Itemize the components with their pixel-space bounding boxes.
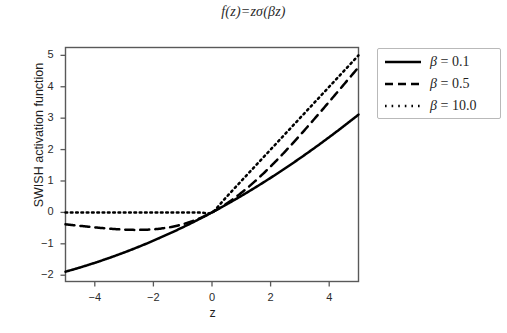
legend-line-solid-icon [383, 51, 423, 73]
legend-box: β = 0.1 β = 0.5 β = 10.0 [377, 48, 501, 119]
y-tick-label: 1 [34, 174, 54, 186]
x-tick-label: 2 [259, 291, 283, 303]
legend-line-dashed-icon [383, 73, 423, 95]
x-tick-label: 4 [317, 291, 341, 303]
legend-item-beta-0-1[interactable]: β = 0.1 [378, 51, 502, 73]
x-tick-marks [95, 282, 329, 287]
x-tick-label: −2 [141, 291, 165, 303]
y-tick-label: −1 [34, 237, 54, 249]
y-tick-label: 4 [34, 80, 54, 92]
figure-container: f(z)=zσ(βz) SWISH activation function z … [0, 0, 507, 333]
y-tick-label: 5 [34, 48, 54, 60]
legend-line-dotted-icon [383, 95, 423, 117]
legend-label-2: β = 10.0 [430, 98, 476, 114]
y-tick-label: −2 [34, 268, 54, 280]
legend-item-beta-10-0[interactable]: β = 10.0 [378, 95, 502, 117]
legend-label-0: β = 0.1 [430, 54, 469, 70]
x-tick-label: −4 [83, 291, 107, 303]
x-tick-label: 0 [200, 291, 224, 303]
y-tick-label: 3 [34, 111, 54, 123]
y-tick-label: 2 [34, 143, 54, 155]
legend-item-beta-0-5[interactable]: β = 0.5 [378, 73, 502, 95]
y-tick-marks [61, 55, 66, 275]
plot-box [66, 48, 359, 282]
y-tick-label: 0 [34, 205, 54, 217]
legend-label-1: β = 0.5 [430, 76, 469, 92]
